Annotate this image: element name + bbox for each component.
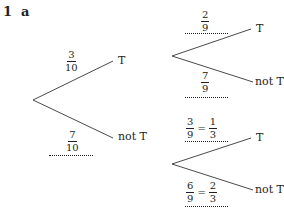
answer-line: [185, 33, 228, 34]
branch-T-notT: [172, 56, 253, 82]
answer-line: [185, 141, 228, 142]
tree-branches: [0, 0, 284, 221]
prob-T-notT: 7 9: [201, 71, 209, 94]
prob-T-T: 2 9: [201, 10, 209, 33]
answer-line: [49, 155, 93, 156]
prob-T: 3 10: [65, 50, 78, 73]
outcome-T-notT: not T: [255, 76, 284, 87]
outcome-notT-T: T: [256, 132, 263, 143]
outcome-notT: not T: [118, 131, 147, 142]
outcome-T-T: T: [256, 23, 263, 34]
outcome-notT-notT: not T: [255, 184, 284, 195]
answer-line: [185, 206, 228, 207]
prob-notT-notT: 6 9 = 2 3: [186, 181, 217, 204]
outcome-T: T: [118, 55, 125, 66]
answer-line: [185, 97, 228, 98]
prob-notT: 7 10: [66, 130, 79, 153]
prob-notT-T: 3 9 = 1 3: [186, 117, 217, 140]
